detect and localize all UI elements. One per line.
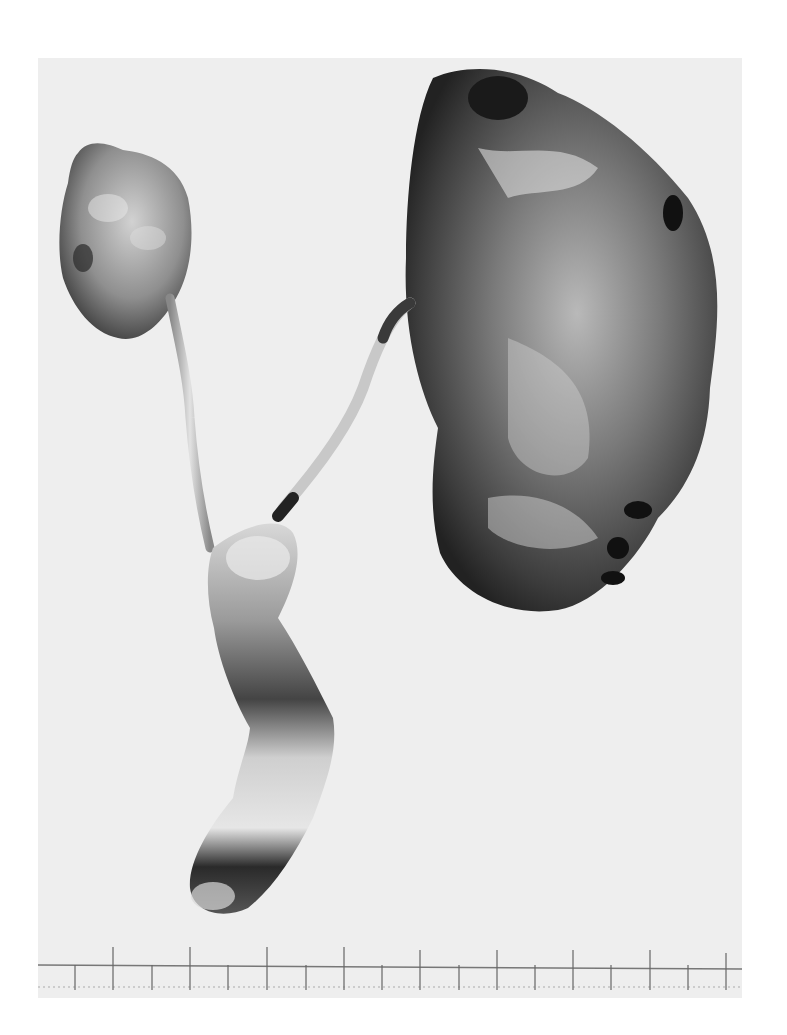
specimen-photo — [38, 58, 742, 998]
bladder-urethra — [190, 524, 334, 914]
scale-ruler — [38, 945, 742, 997]
large-kidney — [406, 69, 718, 611]
right-ureter — [283, 303, 410, 508]
ruler-ticks — [38, 945, 742, 997]
left-ureter — [170, 298, 210, 548]
specimen-drawing — [38, 58, 742, 998]
